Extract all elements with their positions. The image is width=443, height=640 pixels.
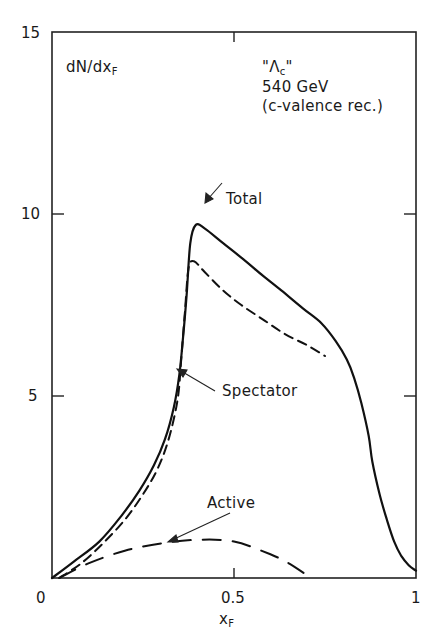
- x-axis-label-subscript: F: [228, 618, 234, 629]
- annotation-arrows: [168, 183, 230, 542]
- process-label-text: "Λ: [262, 58, 280, 76]
- energy-label: 540 GeV: [262, 80, 329, 95]
- y-tick-15: 15: [21, 26, 40, 41]
- y-axis-label-subscript: F: [112, 66, 118, 77]
- x-tick-1: 1: [411, 591, 421, 606]
- process-label-close: ": [286, 58, 293, 76]
- x-tick-0.5: 0.5: [221, 591, 245, 606]
- process-label: "Λc": [262, 60, 293, 77]
- y-tick-10: 10: [21, 207, 40, 222]
- x-axis-label: xF: [219, 612, 234, 629]
- spectator-curve-label: Spectator: [222, 384, 298, 399]
- curves: [52, 224, 416, 578]
- mechanism-label: (c-valence rec.): [262, 99, 383, 114]
- x-tick-0: 0: [36, 591, 46, 606]
- active-curve-label: Active: [207, 496, 255, 511]
- y-axis-label: dN/dxF: [66, 60, 118, 77]
- plot-area: [0, 0, 443, 640]
- active-curve: [59, 540, 310, 578]
- y-axis-label-text: dN/dx: [66, 58, 112, 76]
- total-curve: [52, 224, 416, 578]
- total-curve-label: Total: [226, 192, 263, 207]
- x-axis-label-text: x: [219, 610, 228, 628]
- y-tick-5: 5: [28, 389, 38, 404]
